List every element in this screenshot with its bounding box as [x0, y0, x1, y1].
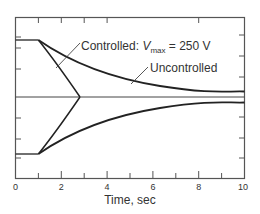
x-tick-label-2: 2 — [59, 182, 64, 192]
controlled-upper-curve — [38, 40, 80, 97]
controlled-lower-curve — [38, 97, 80, 154]
x-tick-label-6: 6 — [150, 182, 155, 192]
x-axis-title: Time, sec — [104, 193, 156, 207]
x-ticks-top — [38, 18, 198, 23]
x-tick-label-0: 0 — [13, 182, 18, 192]
uncontrolled-lower-curve — [38, 102, 244, 154]
controlled-leader-line — [56, 43, 80, 68]
x-tick-label-8: 8 — [196, 182, 201, 192]
annotation-controlled: Controlled: Vmax = 250 V — [81, 39, 211, 55]
x-tick-label-10: 10 — [238, 182, 248, 192]
chart: Controlled: Vmax = 250 V Uncontrolled 0 … — [0, 0, 260, 214]
x-tick-label-4: 4 — [105, 182, 110, 192]
x-ticks-bottom — [38, 171, 221, 178]
annotation-uncontrolled: Uncontrolled — [150, 61, 217, 75]
